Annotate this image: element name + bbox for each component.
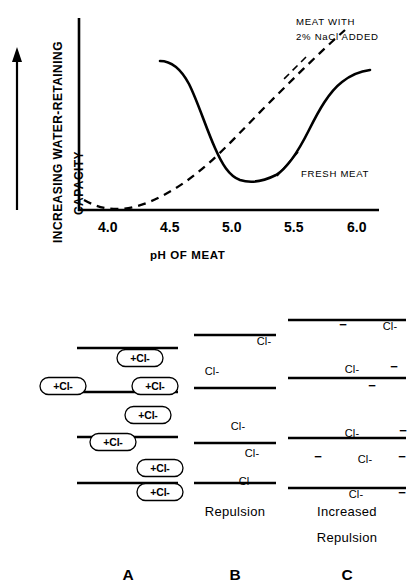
y-axis-title-line2: CAPACITY bbox=[73, 151, 85, 215]
annotation-nacl-line2: 2% NaCl ADDED bbox=[296, 31, 379, 42]
panel-c-caption-line1: Increased bbox=[317, 504, 377, 519]
panel-c-minus-sign-4: − bbox=[314, 449, 322, 464]
panel-a-ion-label-4: +Cl- bbox=[103, 436, 123, 448]
panel-letter-b: B bbox=[229, 566, 240, 583]
panel-b-cl-label-0: Cl- bbox=[257, 335, 272, 347]
water-retaining-capacity-chart: MEAT WITH 2% NaCl ADDED FRESH MEAT 4.0 4… bbox=[0, 0, 419, 285]
panel-b-cl-label-2: Cl- bbox=[231, 420, 246, 432]
panel-a-ion-label-6: +Cl- bbox=[150, 486, 170, 498]
panel-letter-a: A bbox=[122, 566, 133, 583]
panel-b-cl-label-3: Cl- bbox=[245, 447, 260, 459]
panel-c-cl-label-1: Cl- bbox=[345, 363, 360, 375]
myofibril-repulsion-diagram: +Cl-+Cl-+Cl-+Cl-+Cl-+Cl-+Cl-Cl-Cl-Cl-Cl-… bbox=[0, 285, 419, 587]
xtick-label-4: 6.0 bbox=[347, 219, 367, 235]
x-axis-title: pH OF MEAT bbox=[150, 249, 225, 261]
panel-c-cl-label-2: Cl- bbox=[345, 427, 360, 439]
panel-a-ion-label-2: +Cl- bbox=[145, 380, 165, 392]
annotation-leader-fresh bbox=[277, 152, 298, 176]
y-axis-title: INCREASING WATER-RETAINING CAPACITY bbox=[26, 0, 60, 250]
annotation-fresh-meat: FRESH MEAT bbox=[301, 168, 369, 179]
increasing-arrow-icon bbox=[12, 47, 22, 210]
panel-c-cl-label-3: Cl- bbox=[358, 453, 373, 465]
series-nacl-curve bbox=[84, 30, 345, 209]
panel-letter-c: C bbox=[341, 566, 352, 583]
panel-c-minus-sign-1: − bbox=[390, 359, 398, 374]
xtick-label-3: 5.5 bbox=[284, 219, 304, 235]
series-fresh-meat-curve bbox=[160, 61, 370, 182]
panel-c-minus-sign-6: − bbox=[398, 485, 406, 500]
panel-c-caption-line2: Repulsion bbox=[317, 530, 378, 545]
panel-a-ion-label-5: +Cl- bbox=[150, 462, 170, 474]
panel-b-cl-label-1: Cl- bbox=[205, 365, 220, 377]
y-axis-title-line1: INCREASING WATER-RETAINING bbox=[52, 41, 64, 243]
panel-c-minus-sign-5: − bbox=[398, 449, 406, 464]
annotation-nacl-line1: MEAT WITH bbox=[296, 16, 355, 27]
panel-a-ion-label-1: +Cl- bbox=[53, 380, 73, 392]
figure-root: MEAT WITH 2% NaCl ADDED FRESH MEAT 4.0 4… bbox=[0, 0, 419, 587]
panel-c-minus-sign-0: − bbox=[339, 317, 347, 332]
panel-a-ion-label-3: +Cl- bbox=[138, 409, 158, 421]
xtick-label-2: 5.0 bbox=[222, 219, 242, 235]
xtick-label-1: 4.5 bbox=[160, 219, 180, 235]
panel-c-cl-label-0: Cl- bbox=[383, 320, 398, 332]
panel-c-minus-sign-2: − bbox=[368, 378, 376, 393]
panel-c-minus-sign-3: − bbox=[399, 423, 407, 438]
panel-a-ion-label-0: +Cl- bbox=[130, 352, 150, 364]
panel-b-caption: Repulsion bbox=[205, 504, 266, 519]
xtick-label-0: 4.0 bbox=[98, 219, 118, 235]
panel-c-cl-label-4: Cl- bbox=[349, 488, 364, 500]
panel-b-cl-label-4: Cl- bbox=[239, 475, 254, 487]
diagram-svg: +Cl-+Cl-+Cl-+Cl-+Cl-+Cl-+Cl-Cl-Cl-Cl-Cl-… bbox=[0, 285, 419, 587]
